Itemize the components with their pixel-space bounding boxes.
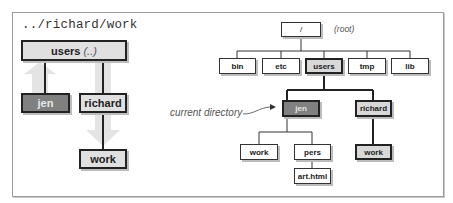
file-art-html: art.html bbox=[294, 168, 331, 184]
dir-etc: etc bbox=[262, 58, 300, 74]
dir-richard-work: work bbox=[355, 144, 392, 160]
root-box: / bbox=[281, 22, 321, 37]
dir-tmp: tmp bbox=[348, 58, 386, 74]
dir-jen-work: work bbox=[240, 144, 278, 160]
dir-richard: richard bbox=[355, 100, 392, 117]
dir-lib: lib bbox=[391, 58, 429, 74]
relative-path-text: ../richard/work bbox=[22, 18, 138, 32]
work-box-left: work bbox=[79, 149, 127, 169]
dir-pers: pers bbox=[294, 144, 331, 160]
callout-arrow-icon bbox=[243, 107, 270, 114]
root-annotation: (root) bbox=[334, 24, 354, 34]
jen-box-left: jen bbox=[21, 93, 70, 113]
up-arrow-icon bbox=[24, 62, 56, 95]
dir-bin: bin bbox=[219, 58, 256, 74]
parent-dir-annotation: (..) bbox=[83, 45, 96, 57]
dir-jen: jen bbox=[282, 100, 320, 117]
users-parent-box: users (..) bbox=[21, 40, 127, 61]
richard-box-left: richard bbox=[79, 93, 127, 113]
current-directory-callout: current directory bbox=[170, 107, 242, 118]
users-label: users bbox=[51, 45, 80, 57]
dir-users: users bbox=[305, 58, 343, 74]
